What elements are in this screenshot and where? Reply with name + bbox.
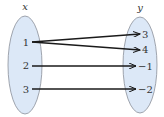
range-set-title: y: [136, 2, 143, 13]
domain-element-1: 1: [23, 37, 29, 48]
range-element-3: 3: [142, 29, 148, 40]
mapping-diagram: x 1 2 3 y 3 4 −1 −2: [0, 0, 164, 117]
range-element-neg2: −2: [138, 84, 153, 95]
arrow-1-to-4: [32, 42, 140, 50]
domain-element-2: 2: [23, 60, 29, 71]
range-element-neg1: −1: [138, 61, 153, 72]
domain-element-3: 3: [23, 84, 29, 95]
domain-set-title: x: [22, 1, 28, 12]
mapping-diagram-canvas: x 1 2 3 y 3 4 −1 −2: [0, 0, 164, 117]
arrow-1-to-3: [32, 34, 140, 42]
range-element-4: 4: [142, 44, 148, 55]
